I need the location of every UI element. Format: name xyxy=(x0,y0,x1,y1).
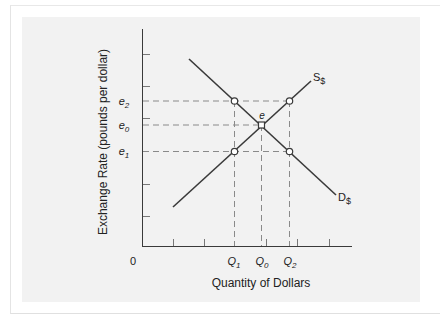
point-q1-e2 xyxy=(231,98,237,104)
point-q1-e1 xyxy=(231,148,237,154)
axes xyxy=(142,29,352,247)
exchange-rate-chart: e2 e0 e1 Q1 Q0 Q2 0 e S$ D$ Exchange Rat… xyxy=(0,0,442,334)
equilibrium-label: e xyxy=(259,110,265,121)
point-q2-e2 xyxy=(286,98,292,104)
q2-label: Q2 xyxy=(283,255,297,270)
y-axis-title: Exchange Rate (pounds per dollar) xyxy=(96,49,110,235)
y-axis-ticks xyxy=(143,55,150,217)
curves xyxy=(173,59,336,207)
e1-label: e1 xyxy=(119,145,130,160)
equilibrium-point xyxy=(259,122,265,128)
origin-label: 0 xyxy=(130,255,136,267)
q0-label: Q0 xyxy=(255,255,269,270)
e0-label: e0 xyxy=(119,119,130,134)
demand-curve-label: D$ xyxy=(338,191,351,206)
dashed-guides xyxy=(143,101,290,246)
x-axis-ticks xyxy=(174,239,330,246)
e2-label: e2 xyxy=(119,95,130,110)
point-q2-e1 xyxy=(286,148,292,154)
q1-label: Q1 xyxy=(227,255,240,270)
supply-curve-label: S$ xyxy=(313,71,325,86)
x-axis-title: Quantity of Dollars xyxy=(212,276,311,290)
